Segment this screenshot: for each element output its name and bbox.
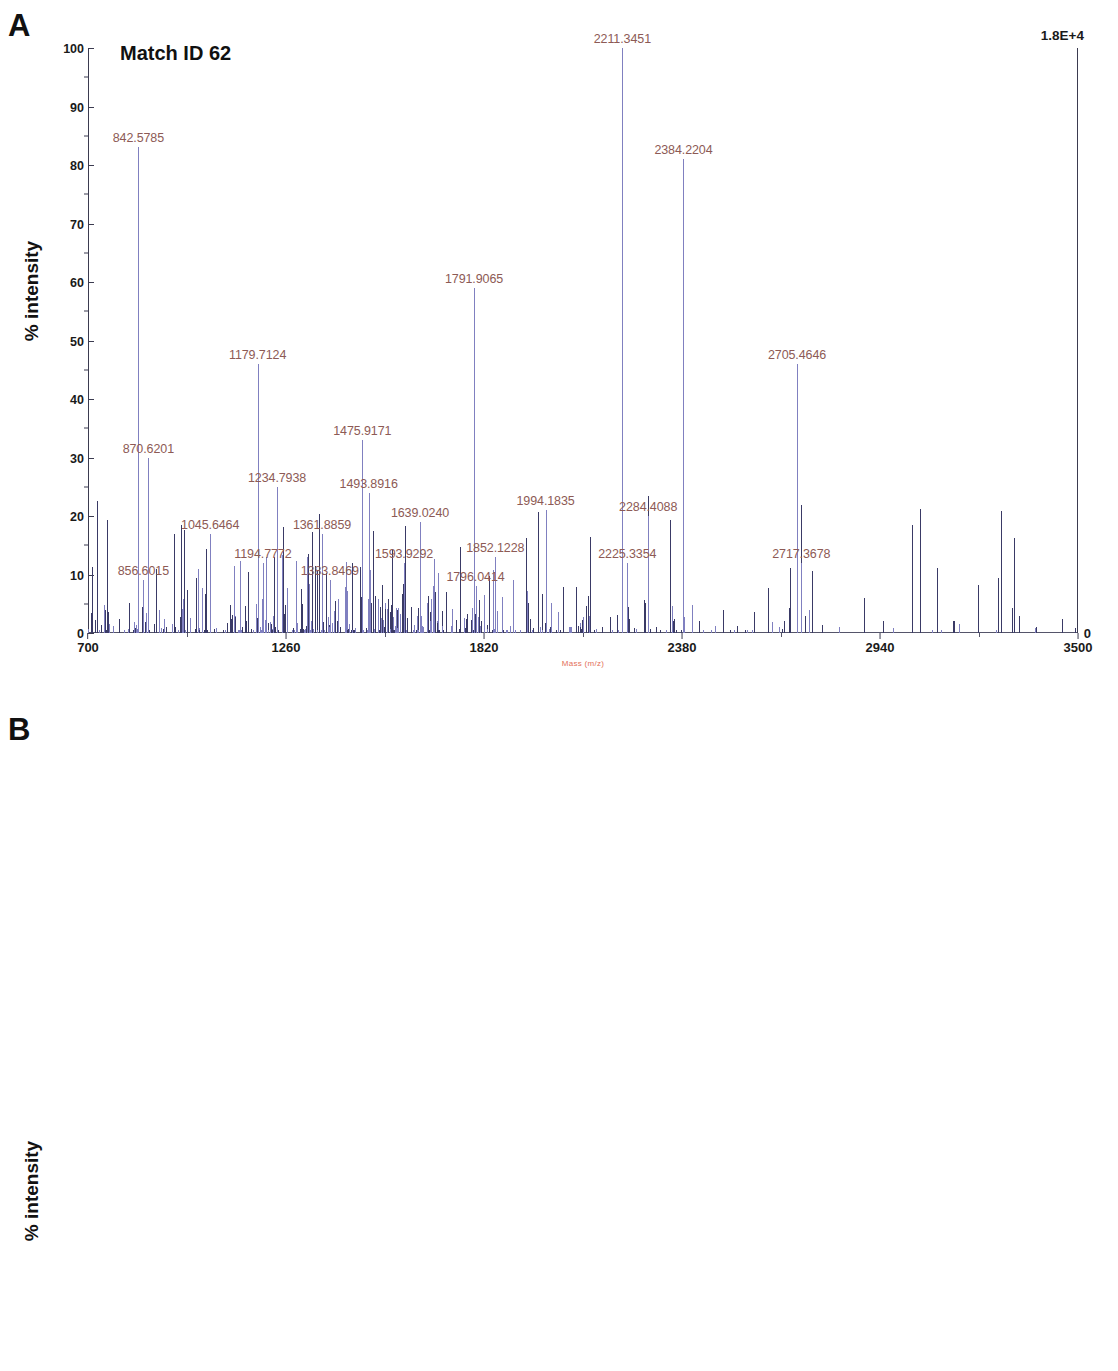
- spectrum-noise-peak: [452, 609, 453, 633]
- spectrum-noise-peak: [839, 627, 840, 633]
- spectrum-noise-peak: [542, 594, 543, 633]
- x-tick-label: 3500: [1064, 640, 1093, 655]
- peak-label: 1361.8859: [293, 518, 351, 532]
- spectrum-noise-peak: [88, 629, 89, 633]
- x-tick-mark: [285, 633, 286, 639]
- spectrum-noise-peak: [240, 561, 241, 633]
- spectrum-peak: [369, 493, 370, 633]
- spectrum-noise-peak: [556, 630, 557, 633]
- spectrum-noise-peak: [216, 628, 217, 633]
- spectrum-noise-peak: [383, 620, 384, 633]
- spectrum-noise-peak: [446, 592, 447, 633]
- spectrum-noise-peak: [513, 626, 514, 633]
- spectrum-peak: [148, 458, 149, 634]
- panel-a-plot-area: Match ID 62 1.8E+4 0 Mass (m/z) 10090807…: [88, 48, 1078, 633]
- y-tick-label: 20: [70, 510, 84, 524]
- spectrum-peak: [627, 563, 628, 633]
- spectrum-noise-peak: [442, 626, 443, 633]
- spectrum-noise-peak: [487, 629, 488, 633]
- spectrum-noise-peak: [119, 619, 120, 633]
- spectrum-noise-peak: [586, 606, 587, 633]
- spectrum-noise-peak: [285, 605, 286, 633]
- spectrum-noise-peak: [156, 569, 157, 633]
- spectrum-noise-peak: [430, 621, 431, 633]
- spectrum-noise-peak: [953, 621, 954, 633]
- spectrum-noise-peak: [340, 627, 341, 633]
- spectrum-noise-peak: [265, 620, 266, 633]
- x-tick-1820: 1820: [470, 633, 499, 655]
- spectrum-noise-peak: [699, 621, 700, 633]
- spectrum-noise-peak: [231, 619, 232, 633]
- y-tick-mark: [88, 458, 94, 459]
- spectrum-noise-peak: [805, 616, 806, 633]
- y-tick-80: 80: [70, 156, 88, 174]
- spectrum-noise-peak: [1075, 628, 1076, 633]
- spectrum-noise-peak: [502, 597, 503, 633]
- spectrum-noise-peak: [251, 629, 252, 633]
- spectrum-noise-peak: [530, 619, 531, 633]
- spectrum-noise-peak: [174, 534, 175, 633]
- spectrum-noise-peak: [266, 557, 267, 633]
- peak-label: 1852.1228: [466, 541, 524, 555]
- spectrum-noise-peak: [366, 628, 367, 633]
- spectrum-noise-peak: [242, 630, 243, 633]
- spectrum-noise-peak: [323, 622, 324, 633]
- spectrum-noise-peak: [287, 588, 288, 633]
- spectrum-noise-peak: [941, 630, 942, 633]
- y-tick-mark: [88, 107, 94, 108]
- spectrum-noise-peak: [588, 596, 589, 633]
- spectrum-noise-peak: [551, 603, 552, 633]
- spectrum-noise-peak: [113, 626, 114, 633]
- spectrum-noise-peak: [198, 569, 199, 633]
- x-tick-minor: [187, 633, 188, 637]
- spectrum-noise-peak: [438, 630, 439, 633]
- y-tick-mark: [88, 341, 94, 342]
- panel-b-letter: B: [8, 712, 30, 748]
- spectrum-noise-peak: [297, 623, 298, 633]
- x-tick-2940: 2940: [866, 633, 895, 655]
- spectrum-noise-peak: [392, 550, 393, 634]
- peak-label: 870.6201: [123, 442, 174, 456]
- spectrum-noise-peak: [471, 630, 472, 633]
- spectrum-noise-peak: [590, 537, 591, 633]
- spectrum-peak: [801, 563, 802, 633]
- spectrum-noise-peak: [398, 629, 399, 633]
- spectrum-noise-peak: [246, 621, 247, 633]
- spectrum-noise-peak: [515, 630, 516, 633]
- x-tick-minor: [385, 633, 386, 637]
- peak-label: 2225.3354: [598, 547, 656, 561]
- spectrum-noise-peak: [549, 629, 550, 633]
- spectrum-noise-peak: [542, 630, 543, 633]
- spectrum-noise-peak: [582, 620, 583, 633]
- x-tick-label: 2940: [866, 640, 895, 655]
- spectrum-noise-peak: [481, 621, 482, 633]
- spectrum-noise-peak: [428, 596, 429, 633]
- spectrum-noise-peak: [380, 607, 381, 633]
- spectrum-noise-peak: [363, 630, 364, 633]
- y-tick-mark: [88, 48, 94, 49]
- panel-a: A % intensity Match ID 62 1.8E+4 0 Mass …: [0, 0, 1118, 690]
- spectrum-noise-peak: [439, 630, 440, 633]
- spectrum-noise-peak: [261, 630, 262, 633]
- spectrum-noise-peak: [602, 627, 603, 633]
- x-tick-label: 1260: [272, 640, 301, 655]
- spectrum-peak: [797, 364, 798, 633]
- spectrum-noise-peak: [196, 578, 197, 633]
- x-tick-label: 700: [77, 640, 99, 655]
- spectrum-peak: [420, 522, 421, 633]
- spectrum-noise-peak: [513, 580, 514, 633]
- spectrum-noise-peak: [1001, 511, 1002, 633]
- spectrum-noise-peak: [656, 627, 657, 633]
- spectrum-noise-peak: [571, 629, 572, 633]
- panel-a-x-axis-title: Mass (m/z): [562, 659, 605, 668]
- y-tick-label: 40: [70, 393, 84, 407]
- spectrum-noise-peak: [387, 609, 388, 633]
- spectrum-noise-peak: [754, 612, 755, 633]
- y-tick-minor: [84, 77, 88, 78]
- spectrum-noise-peak: [747, 630, 748, 633]
- spectrum-noise-peak: [101, 625, 102, 633]
- spectrum-noise-peak: [166, 627, 167, 633]
- y-tick-minor: [84, 194, 88, 195]
- spectrum-noise-peak: [202, 588, 203, 633]
- y-tick-mark: [88, 224, 94, 225]
